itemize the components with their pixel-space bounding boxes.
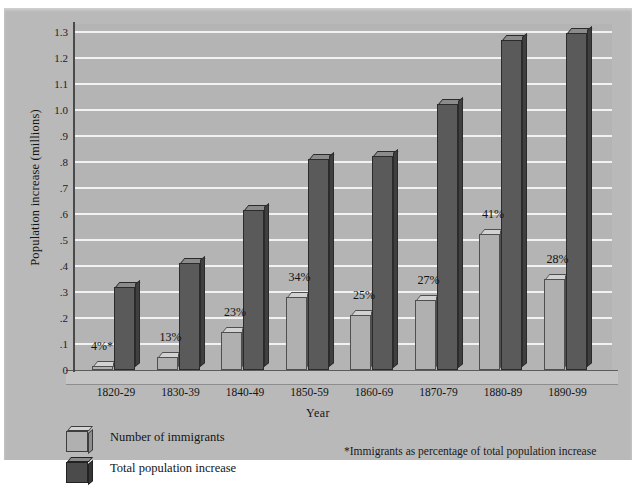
chart-panel: 0.1.2.3.4.5.6.7.8.91.01.11.21.3 Populati… bbox=[4, 8, 632, 460]
bar-immigrants bbox=[479, 234, 500, 371]
bar-total-population bbox=[243, 210, 264, 370]
bar-immigrants bbox=[286, 297, 307, 370]
y-tick-label: 1.3 bbox=[38, 27, 68, 37]
percentage-annotation: 23% bbox=[211, 305, 259, 320]
bar-total-population bbox=[179, 263, 200, 370]
x-axis-title: Year bbox=[4, 406, 632, 421]
y-tick-label: 1.1 bbox=[38, 79, 68, 89]
bar-total-population bbox=[501, 40, 522, 370]
y-tick-label: .5 bbox=[38, 235, 68, 245]
plot-floor bbox=[66, 370, 618, 385]
bar-total-population bbox=[566, 33, 587, 370]
percentage-annotation: 4%* bbox=[78, 339, 126, 354]
legend-label-immigrants: Number of immigrants bbox=[110, 430, 225, 445]
y-axis-title: Population increase (millions) bbox=[28, 73, 43, 303]
percentage-annotation: 13% bbox=[147, 330, 195, 345]
y-tick-label: .9 bbox=[38, 131, 68, 141]
bar-group: 13% bbox=[157, 24, 205, 370]
bar-immigrants bbox=[221, 332, 242, 370]
y-tick-label: .1 bbox=[38, 339, 68, 349]
bar-total-population bbox=[437, 104, 458, 371]
bar-immigrants bbox=[544, 279, 565, 370]
y-tick-label: 0 bbox=[38, 365, 68, 375]
bar-group: 34% bbox=[286, 24, 334, 370]
bar-group: 25% bbox=[350, 24, 398, 370]
bar-groups: 4%*13%23%34%25%27%41%28% bbox=[74, 24, 612, 370]
percentage-annotation: 34% bbox=[276, 270, 324, 285]
x-tick-label: 1890-99 bbox=[530, 386, 606, 398]
percentage-annotation: 27% bbox=[405, 273, 453, 288]
percentage-annotation: 25% bbox=[340, 288, 388, 303]
bar-group: 23% bbox=[221, 24, 269, 370]
bar-group: 28% bbox=[544, 24, 592, 370]
bar-group: 27% bbox=[415, 24, 463, 370]
percentage-annotation: 28% bbox=[534, 252, 582, 267]
y-tick-label: .7 bbox=[38, 183, 68, 193]
legend-swatch-light-icon bbox=[66, 426, 88, 447]
legend-label-total-population: Total population increase bbox=[110, 461, 236, 476]
percentage-annotation: 41% bbox=[469, 207, 517, 222]
bar-total-population bbox=[372, 156, 393, 371]
y-tick-label: 1.0 bbox=[38, 105, 68, 115]
bar-immigrants bbox=[350, 315, 371, 370]
y-tick-label: 1.2 bbox=[38, 53, 68, 63]
bar-total-population bbox=[308, 159, 329, 370]
y-tick-label: .6 bbox=[38, 209, 68, 219]
chart-footnote: *Immigrants as percentage of total popul… bbox=[344, 445, 596, 457]
bar-group: 4%* bbox=[92, 24, 140, 370]
y-tick-label: .2 bbox=[38, 313, 68, 323]
bar-total-population bbox=[114, 287, 135, 370]
bar-immigrants bbox=[92, 366, 113, 370]
bar-group: 41% bbox=[479, 24, 527, 370]
bar-immigrants bbox=[157, 357, 178, 370]
y-tick-label: .3 bbox=[38, 287, 68, 297]
legend-swatch-dark-icon bbox=[66, 457, 88, 478]
chart-figure: 0.1.2.3.4.5.6.7.8.91.01.11.21.3 Populati… bbox=[0, 0, 636, 491]
y-tick-label: .8 bbox=[38, 157, 68, 167]
y-tick-label: .4 bbox=[38, 261, 68, 271]
bar-immigrants bbox=[415, 300, 436, 370]
